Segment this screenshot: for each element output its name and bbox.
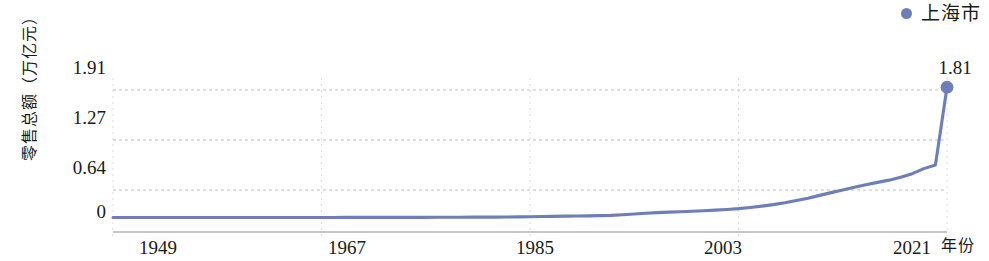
retail-sales-line-chart: 上海市 零售总额（万亿元） 1.91 1.27 0.64 0 1949 1967… xyxy=(0,0,989,261)
series-end-marker xyxy=(941,81,954,94)
plot-area xyxy=(0,0,989,261)
axis-tick-marks xyxy=(113,78,947,236)
